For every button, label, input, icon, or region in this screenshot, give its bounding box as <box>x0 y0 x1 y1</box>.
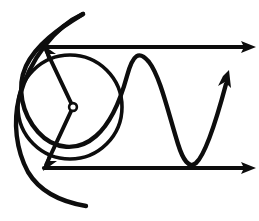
figure-canvas <box>0 0 259 221</box>
geometric-line-drawing <box>0 0 259 221</box>
upper-radius-line <box>46 50 73 107</box>
sine-wave-curve <box>21 14 226 165</box>
center-point-hole <box>70 104 75 109</box>
